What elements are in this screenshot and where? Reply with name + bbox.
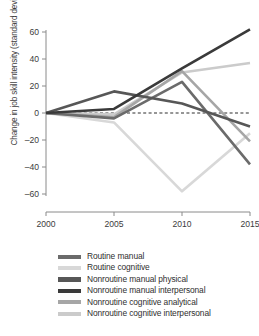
y-tick-label: 60	[29, 27, 39, 37]
legend-swatch-icon	[58, 266, 81, 270]
line-chart: 6040200–20–40–602000200520102015	[0, 0, 259, 248]
legend-item-label: Nonroutine manual physical	[87, 274, 188, 285]
legend-swatch-icon	[58, 289, 81, 293]
y-tick-label: 20	[29, 81, 39, 91]
legend-item[interactable]: Routine manual	[58, 251, 258, 262]
legend-swatch-icon	[58, 277, 81, 281]
y-tick-label: –60	[25, 189, 40, 199]
legend-item-label: Routine cognitive	[87, 262, 150, 273]
series-line	[46, 113, 250, 191]
legend-swatch-icon	[58, 255, 81, 259]
chart-legend: Routine manual Routine cognitive Nonrout…	[58, 251, 258, 319]
legend-item-label: Routine manual	[87, 251, 144, 262]
y-axis-label: Change in job skill intensity (standard …	[10, 0, 19, 153]
x-tick-label: 2015	[240, 219, 259, 229]
legend-item-label: Nonroutine manual interpersonal	[87, 285, 205, 296]
legend-item[interactable]: Nonroutine cognitive interpersonal	[58, 308, 258, 319]
legend-item[interactable]: Nonroutine cognitive analytical	[58, 297, 258, 308]
series-line	[46, 71, 250, 141]
y-tick-label: –20	[25, 135, 40, 145]
legend-item[interactable]: Routine cognitive	[58, 262, 258, 273]
legend-item-label: Nonroutine cognitive interpersonal	[87, 308, 211, 319]
y-tick-label: 40	[29, 54, 39, 64]
x-tick-label: 2005	[104, 219, 123, 229]
legend-swatch-icon	[58, 312, 81, 316]
legend-item-label: Nonroutine cognitive analytical	[87, 297, 198, 308]
x-tick-label: 2010	[172, 219, 191, 229]
x-tick-label: 2000	[36, 219, 55, 229]
y-tick-label: 0	[34, 108, 39, 118]
legend-swatch-icon	[58, 300, 81, 304]
y-tick-label: –40	[25, 162, 40, 172]
legend-item[interactable]: Nonroutine manual interpersonal	[58, 285, 258, 296]
legend-item[interactable]: Nonroutine manual physical	[58, 274, 258, 285]
plot-area: Change in job skill intensity (standard …	[0, 0, 259, 248]
figure: Change in job skill intensity (standard …	[0, 0, 259, 336]
